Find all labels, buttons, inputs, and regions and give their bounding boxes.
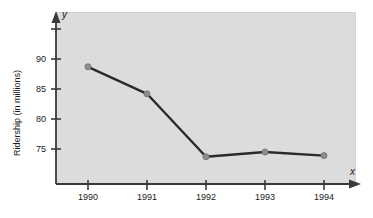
figure-bottom-margin	[0, 206, 373, 218]
y-axis-arrow-icon	[52, 11, 61, 23]
x-tick-label-1993: 1993	[245, 192, 285, 202]
data-line-ridership	[88, 67, 324, 157]
y-axis-title-wrapper: Ridership (in millions)	[0, 30, 14, 160]
y-tick-label-90: 90	[24, 54, 46, 64]
x-tick-label-1991: 1991	[127, 192, 167, 202]
x-tick-label-1990: 1990	[68, 192, 108, 202]
line-chart-svg	[0, 0, 373, 218]
y-axis-title: Ridership (in millions)	[12, 70, 22, 156]
x-axis	[56, 180, 361, 191]
data-point-1993	[262, 149, 268, 155]
x-axis-variable-symbol: x	[350, 167, 355, 177]
y-tick-label-75: 75	[24, 144, 46, 154]
y-axis-variable-symbol: y	[62, 10, 67, 20]
data-points	[85, 64, 327, 160]
data-point-1991	[144, 91, 150, 97]
data-point-1994	[321, 153, 327, 159]
y-axis	[51, 11, 61, 184]
data-point-1990	[85, 64, 91, 70]
x-tick-label-1992: 1992	[186, 192, 226, 202]
data-point-1992	[203, 154, 209, 160]
chart-figure: 90 85 80 75 1990 1991 1992 1993 1994 Yea…	[0, 0, 373, 218]
y-tick-label-85: 85	[24, 84, 46, 94]
x-tick-label-1994: 1994	[304, 192, 344, 202]
x-axis-arrow-icon	[349, 180, 361, 189]
y-tick-label-80: 80	[24, 114, 46, 124]
